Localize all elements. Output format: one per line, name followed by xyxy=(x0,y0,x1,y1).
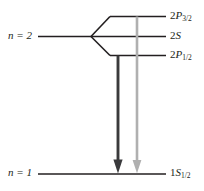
label-n-2-text: n = 2 xyxy=(8,29,32,41)
label-n-1-text: n = 1 xyxy=(8,166,32,178)
label-level-1s12: 1S1/2 xyxy=(170,167,191,179)
label-level-2p12: 2P1/2 xyxy=(170,49,192,61)
transition-arrow-dark xyxy=(113,56,122,174)
energy-level-diagram: n = 2 n = 1 2P3/2 2S 2P1/2 1S1/2 xyxy=(0,0,204,191)
transition-arrow-light xyxy=(133,17,142,174)
label-level-2s-letter: S xyxy=(176,29,182,41)
label-level-2p32: 2P3/2 xyxy=(170,10,192,22)
transition-arrow-light-head xyxy=(133,160,142,173)
label-n-2: n = 2 xyxy=(8,30,32,41)
label-level-2s: 2S xyxy=(170,30,181,42)
label-n-1: n = 1 xyxy=(8,167,32,178)
fork-branch-upper xyxy=(91,17,110,37)
transition-arrow-dark-head xyxy=(113,160,122,174)
label-level-1s12-subscript: 1/2 xyxy=(181,171,191,180)
label-level-2p32-subscript: 3/2 xyxy=(182,14,192,23)
label-level-2p12-subscript: 1/2 xyxy=(182,53,192,62)
fork-branch-lower xyxy=(91,37,110,56)
